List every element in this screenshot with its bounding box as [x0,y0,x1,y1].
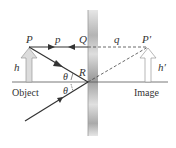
object-arrow [21,48,37,82]
image-arrow [140,48,156,82]
label-q-distance: q [114,33,120,45]
plane-mirror-diagram: P p Q q P′ R h h′ θ θ Object Image [0,0,176,148]
angle-mark-incidence [71,73,73,80]
incident-arrowhead [53,60,63,67]
label-image-caption: Image [134,87,160,98]
label-p-distance: p [54,33,61,45]
label-theta-reflection: θ [63,85,68,96]
label-object-caption: Object [12,87,39,98]
label-q-point: Q [79,33,87,45]
label-image-point: P′ [141,33,152,45]
label-theta-incidence: θ [63,71,68,82]
angle-mark-reflection [71,84,73,91]
ray-arrowhead-left [68,44,75,50]
label-p-point: P [25,33,33,45]
label-r-point: R [78,66,86,78]
mirror [88,10,98,136]
ray-arrowhead-right [48,44,55,50]
label-h: h [14,61,20,73]
label-h-prime: h′ [158,61,167,73]
